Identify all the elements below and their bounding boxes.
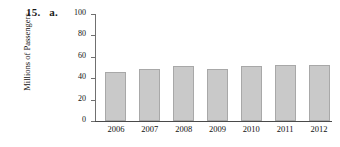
bar (275, 65, 296, 121)
y-tick-label: 60 (78, 51, 86, 60)
bar (241, 66, 262, 121)
x-tick-label: 2008 (168, 124, 200, 134)
y-tick-label: 80 (78, 29, 86, 38)
y-tick-label: 0 (82, 115, 86, 124)
x-tick-label: 2012 (303, 124, 335, 134)
y-tick-label: 100 (74, 8, 86, 17)
bar (309, 65, 330, 121)
y-axis-line (95, 14, 96, 122)
x-tick-label: 2011 (269, 124, 301, 134)
y-axis-title: Millions of Passengers (22, 0, 32, 112)
y-tick: 100 (91, 14, 95, 15)
y-tick: 60 (91, 57, 95, 58)
x-tick-label: 2006 (100, 124, 132, 134)
bar (105, 72, 126, 121)
bar (207, 69, 228, 121)
y-tick: 20 (91, 100, 95, 101)
y-tick-label: 40 (78, 72, 86, 81)
figure: 15.a. Millions of Passengers 02040608010… (0, 0, 340, 147)
y-tick-label: 20 (78, 94, 86, 103)
x-tick-label: 2009 (202, 124, 234, 134)
x-tick-label: 2010 (235, 124, 267, 134)
y-tick: 80 (91, 35, 95, 36)
y-tick: 40 (91, 78, 95, 79)
problem-part: a. (49, 6, 58, 18)
bar (139, 69, 160, 121)
y-tick: 0 (91, 121, 95, 122)
x-tick-label: 2007 (134, 124, 166, 134)
x-axis-line (95, 121, 332, 122)
bar (173, 66, 194, 121)
plot-area: 020406080100 200620072008200920102011201… (95, 14, 332, 122)
